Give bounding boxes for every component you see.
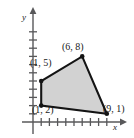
vertex-label-1-5: (1, 5) <box>30 58 52 68</box>
x-axis-arrowhead <box>120 119 127 126</box>
vertex-label-6-8: (6, 8) <box>62 42 84 52</box>
y-axis-label: y <box>22 13 26 22</box>
vertex-point-6-8 <box>80 54 85 59</box>
vertex-point-1-5 <box>39 79 44 84</box>
vertex-label-9-1: (9, 1) <box>103 104 125 114</box>
plot-canvas <box>0 0 134 138</box>
vertex-label-1-2: (1, 2) <box>32 105 54 115</box>
x-axis-label: x <box>113 123 117 132</box>
coordinate-plane-figure: (1, 5) (6, 8) (9, 1) (1, 2) x y <box>0 0 134 138</box>
y-axis-arrowhead <box>30 7 37 14</box>
